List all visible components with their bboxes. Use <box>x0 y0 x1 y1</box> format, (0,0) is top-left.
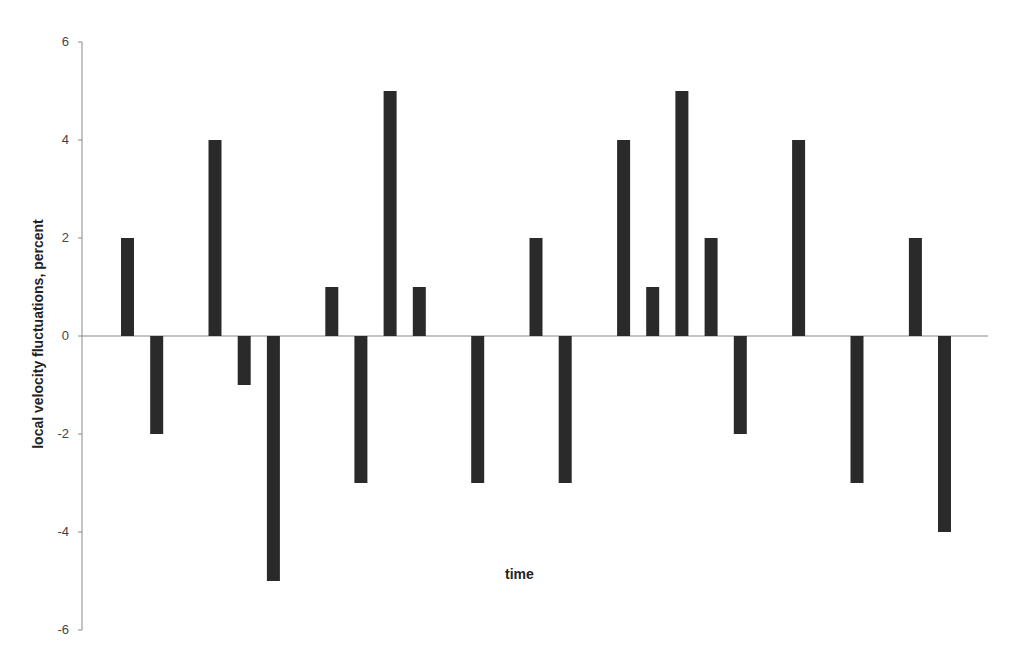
bar <box>354 336 367 483</box>
bar-chart: 6420-2-4-6 local velocity fluctuations, … <box>0 0 1018 661</box>
bar <box>559 336 572 483</box>
y-ticks <box>78 42 82 630</box>
bar <box>938 336 951 532</box>
bar <box>238 336 251 385</box>
bar <box>325 287 338 336</box>
plot-area <box>0 0 1018 661</box>
bar <box>121 238 134 336</box>
bar <box>209 140 222 336</box>
bar <box>705 238 718 336</box>
y-tick-label: -6 <box>29 622 69 637</box>
bar <box>150 336 163 434</box>
y-tick-label: -4 <box>29 524 69 539</box>
bar <box>413 287 426 336</box>
bar <box>530 238 543 336</box>
bar <box>617 140 630 336</box>
x-axis-label: time <box>505 566 534 582</box>
bar <box>646 287 659 336</box>
y-tick-label: 6 <box>29 34 69 49</box>
y-tick-label: 4 <box>29 132 69 147</box>
bar <box>734 336 747 434</box>
y-axis-label: local velocity fluctuations, percent <box>30 184 46 484</box>
bar <box>909 238 922 336</box>
bar <box>792 140 805 336</box>
bar <box>384 91 397 336</box>
bar <box>851 336 864 483</box>
bar <box>675 91 688 336</box>
bar <box>267 336 280 581</box>
bar <box>471 336 484 483</box>
